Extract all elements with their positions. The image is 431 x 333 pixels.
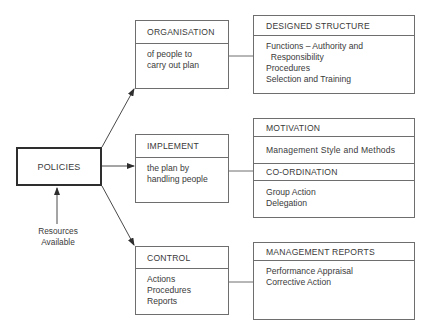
body-line: Group Action: [266, 187, 403, 198]
resources-line1: Resources: [28, 226, 88, 237]
organisation-title: ORGANISATION: [136, 21, 228, 44]
coordination-title: CO-ORDINATION: [254, 164, 414, 181]
body-line: Functions – Authority and: [266, 41, 403, 52]
control-box: CONTROL Actions Procedures Reports: [135, 246, 229, 315]
motivation-body: Management Style and Methods: [254, 137, 414, 164]
policies-box: POLICIES: [16, 147, 102, 186]
body-line: handling people: [147, 174, 217, 185]
motivation-title: MOTIVATION: [254, 119, 414, 137]
body-line: Actions: [147, 274, 217, 285]
resources-line2: Available: [28, 237, 88, 248]
management-reports-title: MANAGEMENT REPORTS: [254, 243, 414, 261]
body-line: Responsibility: [266, 52, 403, 63]
designed-structure-body: Functions – Authority and Responsibility…: [254, 36, 414, 85]
implement-body: the plan by handling people: [136, 158, 228, 185]
arrow-to-organisation: [102, 89, 134, 147]
policies-label: POLICIES: [37, 162, 80, 172]
body-line: Selection and Training: [266, 74, 403, 85]
coordination-body: Group Action Delegation: [254, 181, 414, 209]
body-line: the plan by: [147, 163, 217, 174]
implement-box: IMPLEMENT the plan by handling people: [135, 134, 229, 203]
resources-available-label: Resources Available: [28, 226, 88, 247]
body-line: Delegation: [266, 198, 403, 209]
body-line: Corrective Action: [266, 277, 403, 288]
body-line: of people to: [147, 49, 217, 60]
arrow-to-control: [102, 186, 134, 245]
body-line: Procedures: [266, 63, 403, 74]
body-line: Performance Appraisal: [266, 266, 403, 277]
body-line: Management Style and Methods: [266, 145, 395, 155]
implement-title: IMPLEMENT: [136, 135, 228, 158]
body-line: carry out plan: [147, 60, 217, 71]
organisation-body: of people to carry out plan: [136, 44, 228, 71]
organisation-box: ORGANISATION of people to carry out plan: [135, 20, 229, 89]
designed-structure-title: DESIGNED STRUCTURE: [254, 16, 414, 36]
designed-structure-box: DESIGNED STRUCTURE Functions – Authority…: [253, 15, 415, 94]
body-line: Reports: [147, 296, 217, 307]
control-title: CONTROL: [136, 247, 228, 269]
body-line: Procedures: [147, 285, 217, 296]
management-reports-box: MANAGEMENT REPORTS Performance Appraisal…: [253, 242, 415, 320]
management-reports-body: Performance Appraisal Corrective Action: [254, 261, 414, 288]
control-body: Actions Procedures Reports: [136, 269, 228, 307]
motivation-coordination-box: MOTIVATION Management Style and Methods …: [253, 118, 415, 218]
